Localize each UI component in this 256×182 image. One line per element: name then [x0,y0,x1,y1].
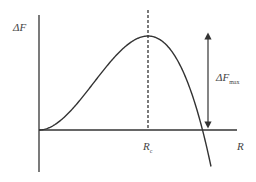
critical-radius-label: Rc [142,140,153,154]
x-axis-label: R [236,140,244,152]
barrier-label: ΔFmax [215,71,240,85]
y-axis-label: ΔF [12,21,26,33]
diagram-canvas: ΔF ΔFmax Rc R [0,0,256,182]
barrier-label-main: ΔF [215,71,229,83]
critical-radius-label-sub: c [150,148,153,154]
free-energy-curve [39,36,211,167]
barrier-label-sub: max [229,79,239,85]
